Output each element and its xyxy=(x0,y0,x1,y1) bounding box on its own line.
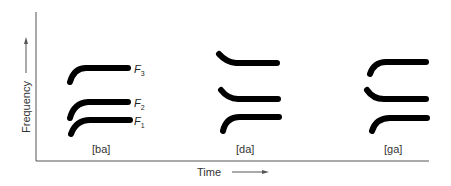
da-f2 xyxy=(221,90,278,99)
x-axis-label: Time xyxy=(197,166,221,178)
formant-label-f3: F3 xyxy=(134,63,145,77)
y-arrow-icon xyxy=(24,37,28,44)
ga-f2 xyxy=(367,90,426,99)
da-f3 xyxy=(219,54,277,63)
ba-f2 xyxy=(70,102,128,118)
da-f1 xyxy=(223,117,279,131)
ba-f3 xyxy=(70,68,128,82)
syllable-label-ga: [ga] xyxy=(384,143,402,155)
syllable-label-da: [da] xyxy=(236,143,254,155)
ga-f1 xyxy=(372,118,427,131)
x-arrow-icon xyxy=(262,170,269,174)
y-axis-label: Frequency xyxy=(20,81,32,133)
syllable-ba: [ba] xyxy=(70,68,130,155)
y-axis-label-group: Frequency xyxy=(20,37,32,133)
ga-f3 xyxy=(370,62,426,74)
formant-label-f1: F1 xyxy=(134,115,145,129)
ba-f1 xyxy=(71,120,130,134)
syllable-label-ba: [ba] xyxy=(92,143,110,155)
syllable-da: [da] xyxy=(219,54,279,155)
x-axis-label-group: Time xyxy=(197,166,269,178)
syllable-ga: [ga] xyxy=(367,62,427,155)
formant-diagram: Frequency Time [ba] F3 F2 F1 [da] [ga] xyxy=(0,0,451,186)
formant-label-f2: F2 xyxy=(134,97,145,111)
formant-labels: F3 F2 F1 xyxy=(134,63,145,129)
